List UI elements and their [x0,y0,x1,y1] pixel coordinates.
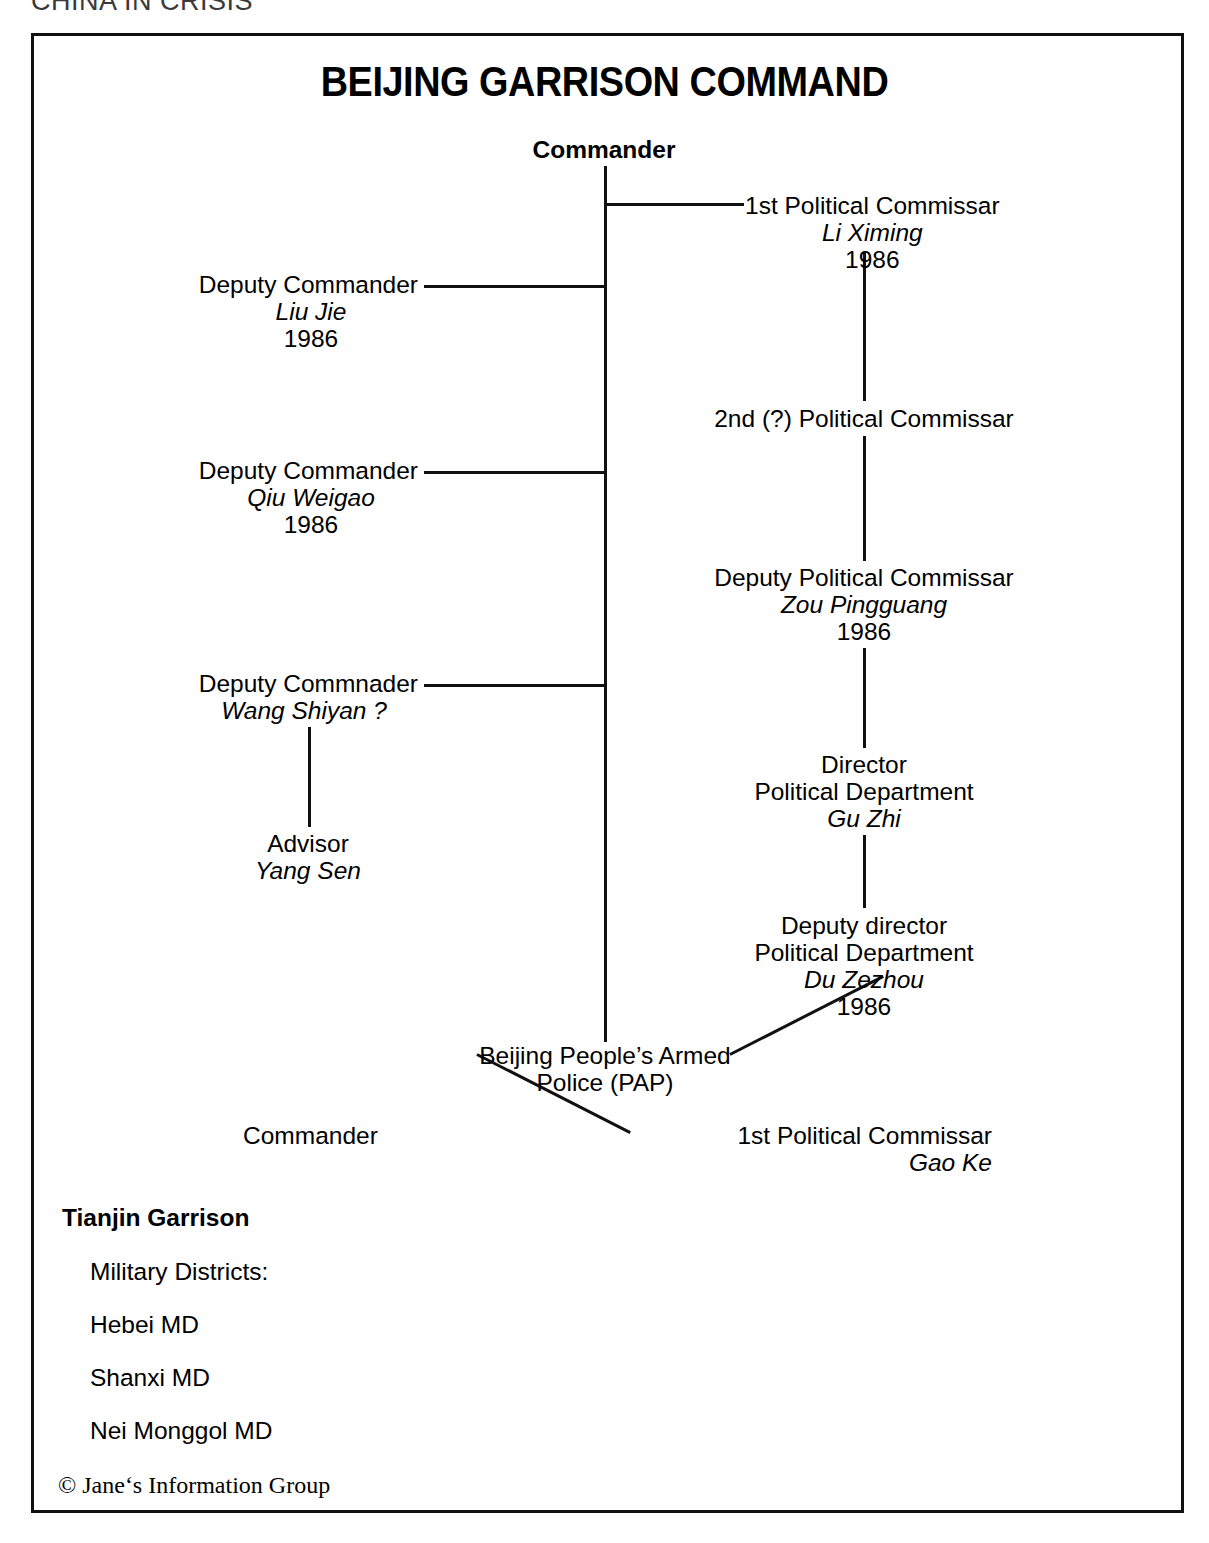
node-deputy-political-commissar-year: 1986 [664,618,1064,645]
node-second-political-commissar-role: 2nd (?) Political Commissar [664,405,1064,432]
connector-pc1-to-pc2 [863,253,866,401]
footer-military-districts-label: Military Districts: [90,1258,268,1286]
node-pap: Beijing People’s Armed Police (PAP) [405,1042,805,1096]
node-deputy-commander-3-name: Wang Shiyan ? [190,697,418,724]
node-deputy-commander-1-role: Deputy Commander [0,271,418,298]
chart-page: CHINA IN CRISIS BEIJING GARRISON COMMAND… [0,0,1209,1543]
footer-district-nei-monggol: Nei Monggol MD [90,1417,272,1445]
footer-tianjin-garrison: Tianjin Garrison [62,1204,249,1232]
node-commander-role: Commander [404,136,804,163]
node-director-political-department: Director Political Department Gu Zhi [664,751,1064,832]
node-pap-first-political-commissar-name: Gao Ke [600,1149,992,1176]
node-first-political-commissar-name: Li Ximing [745,219,1000,246]
node-deputy-political-commissar: Deputy Political Commissar Zou Pingguang… [664,564,1064,645]
node-first-political-commissar: 1st Political Commissar Li Ximing 1986 [745,192,1000,273]
node-deputy-commander-2-name: Qiu Weigao [204,484,418,511]
node-deputy-commander-3-role: Deputy Commnader [0,670,418,697]
node-director-political-department-role: Director [664,751,1064,778]
node-deputy-commander-1-year: 1986 [204,325,418,352]
connector-deputy-commander-3 [424,684,606,687]
node-deputy-director-political-department-name: Du Zezhou [664,966,1064,993]
node-second-political-commissar: 2nd (?) Political Commissar [664,405,1064,432]
node-pap-commander: Commander [243,1122,378,1149]
node-deputy-commander-2-year: 1986 [204,511,418,538]
node-pap-line1: Beijing People’s Armed [405,1042,805,1069]
connector-first-political-commissar [604,203,744,206]
node-deputy-director-political-department: Deputy director Political Department Du … [664,912,1064,1020]
copyright-notice: © Jane‘s Information Group [58,1472,330,1499]
footer-district-hebei: Hebei MD [90,1311,199,1339]
node-advisor-role: Advisor [108,830,508,857]
node-commander: Commander [404,136,804,163]
node-deputy-commander-1-name: Liu Jie [204,298,418,325]
connector-pc2-to-deputy-pc [863,436,866,561]
connector-deputy-commander-1 [424,285,606,288]
node-first-political-commissar-role: 1st Political Commissar [745,192,1000,219]
node-advisor-name: Yang Sen [108,857,508,884]
connector-director-to-deputy-director [863,835,866,908]
node-deputy-director-political-department-role: Deputy director [664,912,1064,939]
node-deputy-commander-3: Deputy Commnader Wang Shiyan ? [0,670,418,724]
connector-advisor [308,727,311,827]
node-deputy-director-political-department-year: 1986 [664,993,1064,1020]
page-title: BEIJING GARRISON COMMAND [73,57,1137,106]
node-pap-commander-role: Commander [243,1122,378,1149]
node-advisor: Advisor Yang Sen [108,830,508,884]
connector-deputy-commander-2 [424,471,606,474]
connector-deputy-pc-to-director [863,648,866,748]
node-director-political-department-unit: Political Department [664,778,1064,805]
node-deputy-political-commissar-role: Deputy Political Commissar [664,564,1064,591]
running-head: CHINA IN CRISIS [31,0,253,17]
node-deputy-commander-2: Deputy Commander Qiu Weigao 1986 [0,457,418,538]
node-director-political-department-name: Gu Zhi [664,805,1064,832]
node-pap-line2: Police (PAP) [405,1069,805,1096]
node-pap-first-political-commissar: 1st Political Commissar Gao Ke [600,1122,992,1176]
node-pap-first-political-commissar-role: 1st Political Commissar [600,1122,992,1149]
node-deputy-director-political-department-unit: Political Department [664,939,1064,966]
node-deputy-political-commissar-name: Zou Pingguang [664,591,1064,618]
node-deputy-commander-1: Deputy Commander Liu Jie 1986 [0,271,418,352]
trunk-connector [604,166,607,1042]
node-first-political-commissar-year: 1986 [745,246,1000,273]
node-deputy-commander-2-role: Deputy Commander [0,457,418,484]
footer-district-shanxi: Shanxi MD [90,1364,210,1392]
